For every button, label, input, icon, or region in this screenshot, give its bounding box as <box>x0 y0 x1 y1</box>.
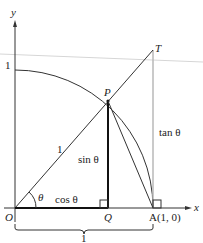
brace-label: 1 <box>81 232 87 243</box>
guide-line <box>0 54 203 62</box>
right-angle-A <box>153 200 161 208</box>
right-angle-Q <box>100 200 108 208</box>
chord-PA <box>108 101 153 208</box>
angle-arc <box>29 192 36 208</box>
radius-label: 1 <box>57 143 63 155</box>
y-axis-arrow <box>13 20 17 27</box>
unit-circle-arc <box>15 70 153 208</box>
x-axis-label: x <box>193 201 199 213</box>
point-O-label: O <box>5 211 13 223</box>
point-Q-label: Q <box>104 211 112 223</box>
x-axis-arrow <box>185 206 192 210</box>
radius-line-OT <box>15 50 153 208</box>
tan-label: tan θ <box>159 126 180 138</box>
y-axis-label: y <box>10 6 16 18</box>
point-T-label: T <box>155 42 162 54</box>
unit-circle-diagram: y x 1 tan θ T P 1 sin θ cos θ θ O Q A(1,… <box>0 0 203 243</box>
point-A-label: A(1, 0) <box>149 211 181 224</box>
sin-label: sin θ <box>78 153 99 165</box>
cos-label: cos θ <box>55 193 78 205</box>
y-axis-one-label: 1 <box>5 59 11 71</box>
point-P-label: P <box>103 86 111 98</box>
angle-label: θ <box>38 191 44 203</box>
